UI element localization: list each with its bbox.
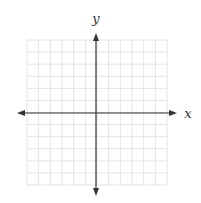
coordinate-plane: y x: [0, 0, 201, 203]
y-axis-label: y: [91, 11, 100, 26]
arrow-left-icon: [17, 110, 25, 116]
arrow-right-icon: [169, 110, 177, 116]
arrow-up-icon: [93, 33, 99, 41]
arrow-down-icon: [93, 188, 99, 196]
x-axis-label: x: [184, 106, 192, 121]
